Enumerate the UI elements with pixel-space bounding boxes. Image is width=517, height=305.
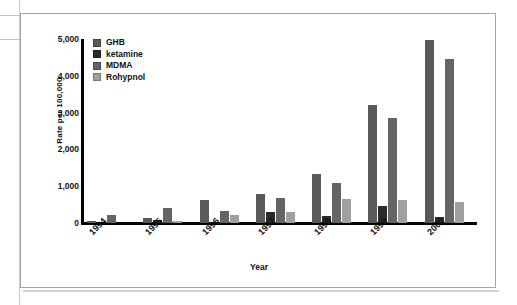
- legend-item-label: ketamine: [106, 50, 143, 59]
- y-axis-tick-label: 3,000: [58, 108, 79, 118]
- legend-swatch-icon: [93, 39, 101, 47]
- bar[interactable]: [455, 202, 464, 223]
- bar[interactable]: [312, 174, 321, 223]
- bar[interactable]: [276, 198, 285, 223]
- bar-group: [200, 39, 250, 223]
- legend-item[interactable]: ketamine: [93, 50, 145, 59]
- bar[interactable]: [173, 221, 182, 223]
- bar[interactable]: [230, 215, 239, 223]
- bar-group: [368, 39, 418, 223]
- page-edge-horizontal-line-top: [0, 15, 20, 16]
- bar[interactable]: [342, 199, 351, 223]
- legend-item-label: GHB: [106, 38, 125, 47]
- bar-chart: Rate per 100,000 01,0002,0003,0004,0005,…: [21, 14, 497, 289]
- legend-swatch-icon: [93, 50, 101, 58]
- y-axis-tick-label: 0: [74, 218, 79, 228]
- bar[interactable]: [368, 105, 377, 223]
- legend-swatch-icon: [93, 62, 101, 70]
- bar[interactable]: [256, 194, 265, 223]
- legend-swatch-icon: [93, 73, 101, 81]
- legend-item[interactable]: GHB: [93, 38, 145, 47]
- y-axis-tick-label: 5,000: [58, 34, 79, 44]
- chart-legend: GHBketamineMDMARohypnol: [93, 38, 145, 82]
- y-axis-tick-label: 4,000: [58, 71, 79, 81]
- bar[interactable]: [425, 40, 434, 223]
- bar[interactable]: [445, 59, 454, 223]
- legend-item[interactable]: Rohypnol: [93, 73, 145, 82]
- bar-group: [312, 39, 362, 223]
- bar[interactable]: [332, 183, 341, 223]
- bar-group: [143, 39, 193, 223]
- y-axis-tick-labels: 01,0002,0003,0004,0005,000: [35, 14, 79, 289]
- legend-item-label: MDMA: [106, 61, 132, 70]
- y-axis-tick-label: 1,000: [58, 181, 79, 191]
- bar[interactable]: [200, 200, 209, 223]
- legend-item[interactable]: MDMA: [93, 61, 145, 70]
- figure-card: Rate per 100,000 01,0002,0003,0004,0005,…: [20, 13, 496, 288]
- bar[interactable]: [163, 208, 172, 223]
- bar[interactable]: [107, 215, 116, 223]
- bar[interactable]: [286, 212, 295, 223]
- bar[interactable]: [388, 118, 397, 223]
- bar[interactable]: [398, 200, 407, 223]
- y-axis-tick-label: 2,000: [58, 144, 79, 154]
- x-axis-tick-labels: 1994199519961997199819992000: [83, 226, 477, 266]
- x-axis-title: Year: [21, 262, 497, 272]
- bar-group: [256, 39, 306, 223]
- page-edge-horizontal-line-middle: [0, 39, 20, 40]
- legend-item-label: Rohypnol: [106, 73, 145, 82]
- bar[interactable]: [220, 211, 229, 223]
- bar-group: [425, 39, 475, 223]
